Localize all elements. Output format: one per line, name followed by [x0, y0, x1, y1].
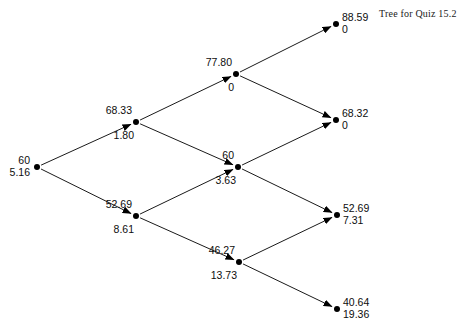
tree-node-n1d	[133, 213, 139, 219]
tree-edge	[243, 264, 332, 307]
tree-edge	[242, 122, 331, 165]
node-asset-price-n2ud: 60	[222, 149, 234, 161]
node-option-value-n3uud: 0	[342, 119, 368, 131]
node-asset-price-n3uuu: 88.59	[342, 11, 368, 23]
node-asset-price-n1u: 68.33	[106, 104, 132, 116]
node-option-value-n3udd: 7.31	[343, 214, 369, 226]
binomial-tree-canvas	[0, 0, 468, 335]
tree-node-n2uu	[233, 71, 239, 77]
node-values-n3uud: 68.320	[342, 107, 368, 131]
tree-edge	[140, 124, 233, 165]
tree-edge	[243, 217, 332, 260]
node-option-value-n2dd: 13.73	[211, 269, 237, 281]
diagram-title: Tree for Quiz 15.2	[379, 8, 457, 19]
tree-node-n3udd	[334, 212, 340, 218]
tree-node-n2ud	[235, 164, 241, 170]
node-asset-price-n3uud: 68.32	[342, 107, 368, 119]
node-option-value-n2ud: 3.63	[216, 174, 236, 186]
node-option-value-n1d: 8.61	[114, 223, 134, 235]
tree-edge	[240, 26, 331, 72]
node-values-n3uuu: 88.590	[342, 11, 368, 35]
node-option-value-n3ddd: 19.36	[343, 308, 369, 320]
node-asset-price-n2uu: 77.80	[206, 56, 232, 68]
node-asset-price-n1d: 52.69	[106, 198, 132, 210]
node-values-n3udd: 52.697.31	[343, 202, 369, 226]
node-values-n3ddd: 40.6419.36	[343, 296, 369, 320]
node-option-value-n2uu: 0	[228, 81, 234, 93]
node-option-value-n0: 5.16	[10, 166, 30, 178]
tree-node-n2dd	[236, 259, 242, 265]
node-asset-price-n3ddd: 40.64	[343, 296, 369, 308]
node-asset-price-n0: 60	[10, 154, 30, 166]
tree-node-n3ddd	[334, 306, 340, 312]
node-values-n0: 605.16	[10, 154, 30, 178]
tree-node-layer	[34, 21, 340, 312]
tree-node-n1u	[133, 119, 139, 125]
node-asset-price-n3udd: 52.69	[343, 202, 369, 214]
node-asset-price-n2dd: 46.27	[209, 244, 235, 256]
node-option-value-n1u: 1.80	[114, 129, 134, 141]
tree-edge	[140, 76, 231, 120]
tree-node-n3uud	[333, 117, 339, 123]
tree-edge-layer	[41, 26, 332, 306]
tree-node-n0	[34, 164, 40, 170]
node-option-value-n3uuu: 0	[342, 23, 368, 35]
tree-edge	[242, 169, 332, 213]
tree-node-n3uuu	[333, 21, 339, 27]
tree-edge	[240, 76, 331, 118]
